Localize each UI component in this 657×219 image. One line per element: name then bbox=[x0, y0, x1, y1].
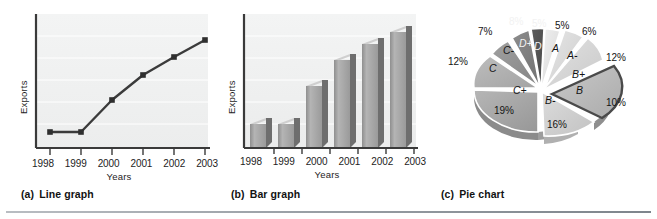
bar-graph-y-axis-label: Exports bbox=[226, 80, 237, 114]
figure-three-chart-types: Exports bbox=[0, 0, 657, 219]
line-graph-plot bbox=[14, 6, 214, 158]
bar-2003 bbox=[390, 26, 412, 148]
bar-graph-tick-2003: 2003 bbox=[404, 156, 426, 167]
line-graph-x-tick-labels: 1998 1999 2000 2001 2002 2003 bbox=[32, 158, 218, 169]
bar-2002 bbox=[362, 38, 384, 148]
caption-b-tag: (b) bbox=[231, 188, 245, 200]
bar-2000 bbox=[306, 80, 328, 148]
figure-bottom-rule bbox=[6, 211, 651, 213]
line-graph-tick-1998: 1998 bbox=[32, 158, 54, 169]
line-graph-tick-1999: 1999 bbox=[65, 158, 87, 169]
caption-pie-chart: (c)Pie chart bbox=[441, 188, 504, 200]
bar-graph-tick-2000: 2000 bbox=[306, 156, 328, 167]
bar-graph-x-tick-labels: 1998 1999 2000 2001 2002 2003 bbox=[240, 156, 426, 167]
bar-graph-tick-1998: 1998 bbox=[240, 156, 262, 167]
caption-line-graph: (a)Line graph bbox=[21, 188, 94, 200]
pie-chart-plot bbox=[428, 4, 654, 176]
line-graph-plot-background bbox=[36, 14, 208, 148]
bar-graph-x-axis-label: Years bbox=[232, 169, 422, 180]
pie-slice-C-plus bbox=[474, 90, 538, 132]
pie-chart-panel: 5% D 5% A 6% A- 12% B+ 10% B 16% B- 19% … bbox=[428, 4, 654, 176]
bar-graph-tick-1999: 1999 bbox=[273, 156, 295, 167]
line-graph-y-axis-label: Exports bbox=[18, 80, 29, 114]
bar-graph-tick-2002: 2002 bbox=[371, 156, 393, 167]
caption-a-tag: (a) bbox=[21, 188, 34, 200]
caption-bar-graph: (b)Bar graph bbox=[231, 188, 300, 200]
line-graph-tick-2002: 2002 bbox=[163, 158, 185, 169]
line-graph-tick-2003: 2003 bbox=[196, 158, 218, 169]
caption-c-tag: (c) bbox=[441, 188, 454, 200]
caption-a-label: Line graph bbox=[39, 188, 94, 200]
line-graph-tick-2000: 2000 bbox=[98, 158, 120, 169]
caption-c-label: Pie chart bbox=[459, 188, 504, 200]
bar-graph-plot bbox=[222, 6, 422, 158]
bar-graph-tick-2001: 2001 bbox=[338, 156, 360, 167]
bar-2001 bbox=[334, 54, 356, 148]
line-graph-tick-2001: 2001 bbox=[130, 158, 152, 169]
bar-graph-panel: Exports bbox=[222, 6, 422, 176]
caption-b-label: Bar graph bbox=[250, 188, 301, 200]
line-graph-panel: Exports bbox=[14, 6, 214, 176]
line-graph-x-axis-label: Years bbox=[24, 171, 214, 182]
